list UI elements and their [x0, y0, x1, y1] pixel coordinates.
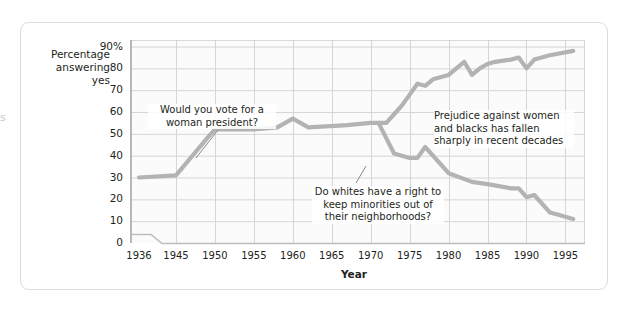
x-tick-label: 1936 — [119, 250, 159, 261]
x-tick-label: 1955 — [234, 250, 274, 261]
chart-figure: Percentage answering yes 010203040506070… — [0, 0, 624, 313]
y-tick-label: 30 — [89, 171, 123, 183]
y-tick-label: 80 — [89, 61, 123, 73]
y-tick-label: 70 — [89, 83, 123, 95]
y-tick-label: 40 — [89, 149, 123, 161]
x-tick-label: 1985 — [468, 250, 508, 261]
y-tick-label: 20 — [89, 192, 123, 204]
x-tick-label: 1990 — [506, 250, 546, 261]
x-tick-label: 1970 — [351, 250, 391, 261]
x-tick-label: 1960 — [273, 250, 313, 261]
x-tick-label: 1965 — [312, 250, 352, 261]
x-tick-label: 1975 — [390, 250, 430, 261]
y-tick-label: 0 — [89, 236, 123, 248]
y-tick-label: 90% — [89, 40, 123, 52]
annotation-whites-neighborhoods: Do whites have a right to keep minoritie… — [312, 186, 444, 224]
y-tick-label: 50 — [89, 127, 123, 139]
x-tick-label: 1945 — [156, 250, 196, 261]
annotation-woman-president: Would you vote for a woman president? — [148, 104, 276, 129]
x-axis-title: Year — [324, 268, 384, 280]
y-tick-label: 60 — [89, 105, 123, 117]
y-tick-label: 10 — [89, 214, 123, 226]
x-tick-label: 1995 — [545, 250, 585, 261]
x-tick-label: 1980 — [429, 250, 469, 261]
x-tick-label: 1950 — [195, 250, 235, 261]
annotation-prejudice: Prejudice against women and blacks has f… — [434, 110, 574, 148]
